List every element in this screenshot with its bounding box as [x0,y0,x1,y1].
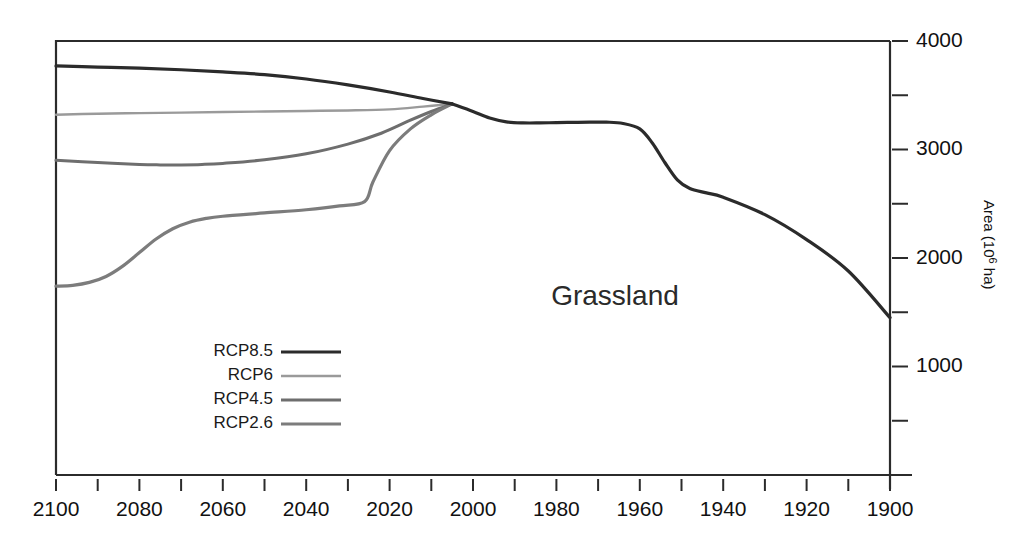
y-axis-ticks [892,41,908,475]
y-axis-title-tail: ha) [981,264,998,290]
series-line-rcp2-6 [56,104,452,286]
chart-figure: 2100208020602040202020001980196019401920… [0,0,1018,535]
series-line-rcp6 [56,104,452,115]
x-tick-label: 2040 [283,497,330,520]
y-tick-label: 2000 [916,245,963,268]
x-tick-label: 1980 [533,497,580,520]
x-tick-label: 1940 [700,497,747,520]
y-axis-tick-labels: 4000300020001000 [916,28,963,377]
legend-label-rcp6: RCP6 [228,365,273,384]
y-axis-title-text: Area (10 [981,200,998,258]
line-chart: 2100208020602040202020001980196019401920… [0,0,1018,535]
svg-text:Area (106 ha): Area (106 ha) [981,200,999,290]
legend-label-rcp8-5: RCP8.5 [213,341,273,360]
x-tick-label: 1900 [867,497,914,520]
y-tick-label: 3000 [916,136,963,159]
data-series-group [56,66,890,318]
x-tick-label: 2100 [33,497,80,520]
y-axis-title: Area (106 ha) [981,200,999,290]
series-line-rcp8-5 [56,66,452,104]
x-tick-label: 2020 [366,497,413,520]
x-tick-label: 2000 [450,497,497,520]
x-axis-tick-labels: 2100208020602040202020001980196019401920… [33,497,914,520]
legend-label-rcp2-6: RCP2.6 [213,413,273,432]
plot-annotation-grassland: Grassland [551,280,679,311]
x-tick-label: 2060 [199,497,246,520]
x-tick-label: 1960 [616,497,663,520]
y-tick-label: 4000 [916,28,963,51]
y-tick-label: 1000 [916,353,963,376]
plot-frame [56,41,912,489]
x-tick-label: 2080 [116,497,163,520]
axis-frame [56,41,912,489]
chart-legend: RCP8.5RCP6RCP4.5RCP2.6 [213,341,341,432]
x-tick-label: 1920 [783,497,830,520]
legend-label-rcp4-5: RCP4.5 [213,389,273,408]
x-axis-ticks [56,479,890,491]
